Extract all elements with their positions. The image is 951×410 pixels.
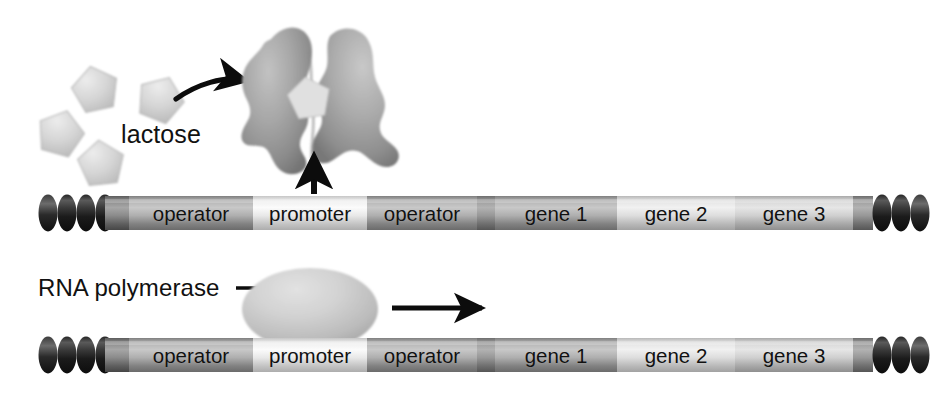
dna-label-operator-1-top: operator [129,202,253,226]
figure-canvas: lactose RNA polymerase operator promoter… [0,0,951,410]
dna-coil-right [873,337,930,374]
dna-label-gene-2-bottom: gene 2 [617,344,735,368]
dna-label-gene-3-top: gene 3 [735,202,853,226]
dna-coil-left [39,195,115,232]
dna-coil-left [39,337,115,374]
dna-label-operator-2-bottom: operator [367,344,477,368]
dna-label-gene-3-bottom: gene 3 [735,344,853,368]
lactose-label: lactose [121,120,201,149]
dna-label-operator-2-top: operator [367,202,477,226]
lactose-pentagon [76,138,126,187]
dna-label-gene-1-top: gene 1 [495,202,617,226]
rna-polymerase-label: RNA polymerase [38,274,219,302]
lactose-binding-arrow [176,79,243,99]
dna-label-operator-1-bottom: operator [129,344,253,368]
dna-label-promoter-bottom: promoter [253,344,367,368]
lactose-pentagon [33,105,89,160]
dna-label-gene-1-bottom: gene 1 [495,344,617,368]
dna-coil-right [873,195,930,232]
rna-polymerase-blob [242,268,378,350]
lactose-pentagon [68,62,122,115]
dna-label-promoter-top: promoter [253,202,367,226]
dna-label-gene-2-top: gene 2 [617,202,735,226]
